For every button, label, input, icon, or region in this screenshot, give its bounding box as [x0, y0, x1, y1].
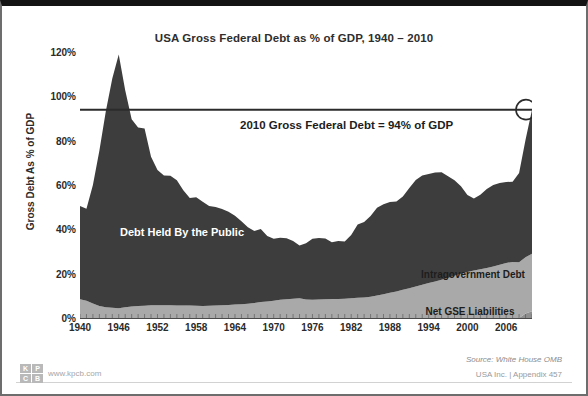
y-tick-20pct: 20% — [56, 268, 76, 279]
x-tick-1952: 1952 — [146, 322, 168, 333]
series-label-intragovernment-debt: Intragovernment Debt — [408, 268, 538, 281]
x-tick-2006: 2006 — [495, 322, 517, 333]
appendix-note: USA Inc. | Appendix 457 — [476, 370, 562, 379]
x-axis-line — [80, 318, 532, 319]
callout-annotation: 2010 Gross Federal Debt = 94% of GDP — [240, 119, 453, 131]
kpcb-branding: KPCB www.kpcb.com — [20, 364, 101, 383]
slide-canvas: USA Gross Federal Debt as % of GDP, 1940… — [0, 0, 588, 396]
x-axis-tick-labels: 1940194619521958196419701976198219881994… — [80, 322, 532, 342]
x-tick-1970: 1970 — [263, 322, 285, 333]
x-tick-1958: 1958 — [185, 322, 207, 333]
x-tick-1988: 1988 — [379, 322, 401, 333]
y-tick-40pct: 40% — [56, 224, 76, 235]
x-tick-1946: 1946 — [108, 322, 130, 333]
kpcb-logo-letter: B — [32, 374, 43, 383]
x-tick-2000: 2000 — [456, 322, 478, 333]
x-tick-1964: 1964 — [224, 322, 246, 333]
chart-title: USA Gross Federal Debt as % of GDP, 1940… — [2, 32, 586, 44]
kpcb-logo-icon: KPCB — [20, 364, 43, 383]
x-tick-1982: 1982 — [340, 322, 362, 333]
kpcb-logo-letter: K — [20, 364, 31, 373]
x-tick-1940: 1940 — [69, 322, 91, 333]
y-tick-80pct: 80% — [56, 135, 76, 146]
kpcb-logo-letter: C — [20, 374, 31, 383]
series-label-debt-held-by-public: Debt Held By the Public — [112, 225, 252, 239]
source-note: Source: White House OMB — [466, 355, 562, 364]
y-tick-100pct: 100% — [50, 91, 76, 102]
kpcb-url: www.kpcb.com — [48, 369, 101, 378]
x-tick-1976: 1976 — [301, 322, 323, 333]
y-tick-120pct: 120% — [50, 47, 76, 58]
series-label-net-gse-liabilities: Net GSE Liabilities — [400, 306, 540, 317]
x-tick-1994: 1994 — [418, 322, 440, 333]
y-axis-tick-labels: 0%20%40%60%80%100%120% — [40, 52, 76, 318]
kpcb-logo-letter: P — [32, 364, 43, 373]
y-tick-60pct: 60% — [56, 180, 76, 191]
y-axis-label: Gross Debt As % of GDP — [25, 82, 36, 262]
